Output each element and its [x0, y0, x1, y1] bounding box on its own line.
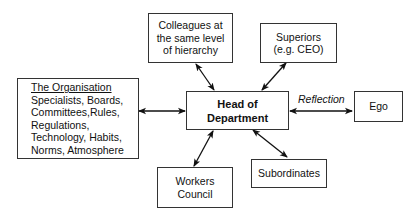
- colleagues-line: of hierarchy: [163, 44, 218, 57]
- reflection-label: Reflection: [298, 93, 345, 105]
- arrow-subordinates-head: [253, 130, 287, 157]
- node-subordinates: Subordinates: [251, 159, 327, 188]
- organisation-line: Committees,Rules,: [31, 106, 120, 119]
- organisation-line: Norms, Atmosphere: [31, 144, 124, 157]
- superiors-line: Superiors: [276, 31, 321, 44]
- node-head-of-department: Head of Department: [186, 91, 289, 130]
- head-line: Department: [207, 111, 268, 125]
- arrow-workers-head: [194, 131, 213, 166]
- colleagues-line: the same level: [157, 32, 225, 45]
- node-workers-council: Workers Council: [157, 167, 233, 208]
- node-organisation: The Organisation Specialists, Boards, Co…: [17, 78, 139, 159]
- workers-council-line: Council: [177, 188, 212, 201]
- arrow-colleagues-head: [196, 64, 214, 90]
- node-colleagues: Colleagues at the same level of hierarch…: [148, 13, 233, 63]
- node-ego: Ego: [354, 91, 403, 122]
- organisation-title: The Organisation: [31, 81, 112, 94]
- colleagues-line: Colleagues at: [158, 19, 222, 32]
- node-superiors: Superiors (e.g. CEO): [260, 23, 337, 63]
- workers-council-line: Workers: [176, 175, 215, 188]
- head-line: Head of: [217, 97, 257, 111]
- organisation-line: Specialists, Boards,: [31, 94, 123, 107]
- organisation-line: Technology, Habits,: [31, 131, 122, 144]
- ego-label: Ego: [369, 100, 388, 113]
- subordinates-label: Subordinates: [258, 167, 320, 180]
- organisation-line: Regulations,: [31, 119, 89, 132]
- arrow-superiors-head: [262, 63, 286, 90]
- superiors-line: (e.g. CEO): [273, 43, 323, 56]
